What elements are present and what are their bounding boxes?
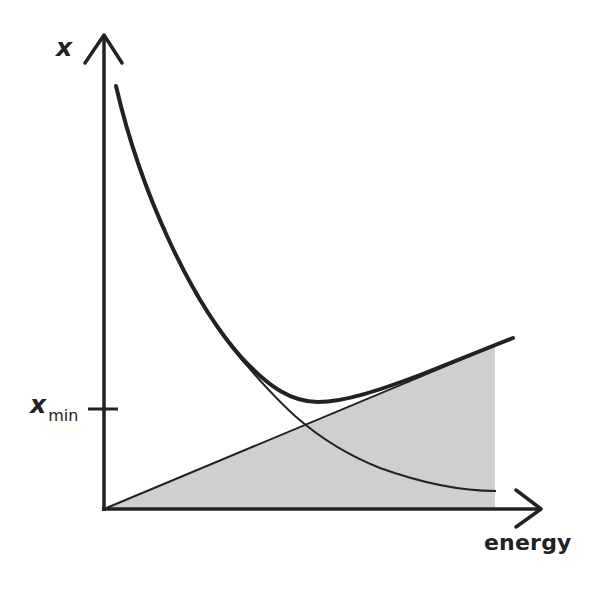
x-axis-label: energy (484, 530, 572, 555)
xmin-label-main: x (30, 390, 46, 419)
y-axis-label: x (56, 33, 72, 62)
sum-curve (116, 86, 513, 402)
xmin-label: xmin (30, 390, 76, 419)
energy-diagram (0, 0, 596, 589)
xmin-label-subscript: min (48, 406, 78, 425)
